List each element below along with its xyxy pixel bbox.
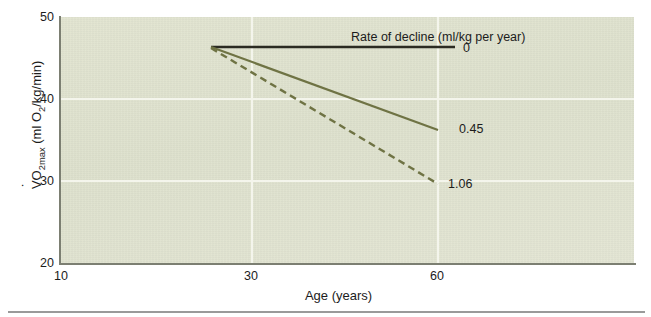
series-label-045: 0.45 — [459, 123, 483, 136]
x-tick-label-10: 10 — [41, 270, 81, 283]
y-axis-title-sub2: 2 — [37, 107, 47, 112]
gridline-x-30 — [251, 17, 253, 263]
y-axis-line — [59, 16, 61, 265]
gridline-y-30 — [61, 180, 634, 182]
footer-rule — [8, 311, 645, 313]
series-label-106: 1.06 — [448, 178, 472, 191]
x-axis-line — [59, 263, 636, 265]
plot-area — [61, 17, 634, 263]
figure-container: 50 40 30 20 10 30 60 VO2max (ml O2/kg/mi… — [0, 0, 651, 317]
gridline-y-40 — [61, 98, 634, 100]
y-tick-label-20: 20 — [20, 257, 54, 270]
x-tick-label-60: 60 — [417, 270, 457, 283]
x-axis-title-text: Age (years) — [305, 288, 372, 303]
y-tick-label-50: 50 — [20, 11, 54, 24]
y-axis-title-close: /kg/min) — [29, 61, 44, 107]
x-axis-title: Age (years) — [0, 288, 651, 303]
gridline-x-60 — [437, 17, 439, 263]
y-axis-title: VO2max (ml O2/kg/min) — [29, 25, 47, 225]
y-axis-title-sub2max: 2max — [37, 147, 47, 170]
series-label-0: 0 — [463, 42, 470, 55]
y-axis-title-o: O — [29, 170, 44, 180]
x-tick-label-30: 30 — [231, 270, 271, 283]
y-axis-title-open: (ml O — [29, 112, 44, 147]
legend-title: Rate of decline (ml/kg per year) — [351, 31, 525, 44]
plot-texture — [61, 17, 634, 263]
v-dot-accent: V — [29, 180, 44, 189]
